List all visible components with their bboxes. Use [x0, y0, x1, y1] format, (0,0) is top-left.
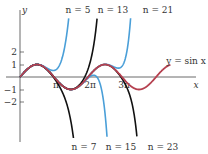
- x-tick-2pi: 2π: [84, 80, 96, 90]
- label-n5: n = 5: [66, 5, 91, 15]
- taylor-curve-n7: [20, 65, 73, 139]
- y-tick-2: 2: [11, 47, 17, 57]
- taylor-curve-n15: [20, 65, 107, 137]
- y-tick-neg2: −2: [4, 97, 17, 107]
- y-tick-neg1: −1: [4, 85, 17, 95]
- x-ticks: π 2π 3π: [53, 80, 130, 90]
- taylor-curve-n21: [20, 18, 131, 89]
- y-axis-label: y: [21, 5, 28, 15]
- x-axis-label: x: [193, 80, 198, 90]
- label-n13: n = 13: [98, 5, 129, 15]
- label-n21: n = 21: [143, 5, 174, 15]
- label-n23: n = 23: [148, 142, 179, 152]
- label-n15: n = 15: [106, 142, 137, 152]
- y-tick-1: 1: [11, 60, 17, 70]
- taylor-sine-chart: y x 2 1 −1 −2 π 2π 3π n = 5 n = 13 n = 2…: [0, 0, 208, 154]
- label-n7: n = 7: [72, 142, 97, 152]
- curves: [20, 18, 170, 138]
- label-sin: y = sin x: [165, 56, 206, 66]
- axes: y x: [6, 5, 199, 142]
